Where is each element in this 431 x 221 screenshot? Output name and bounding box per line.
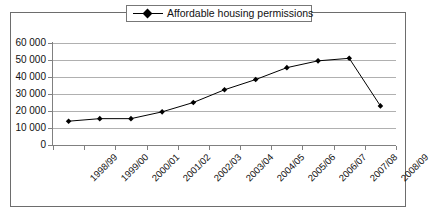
y-axis-tick <box>48 94 52 95</box>
x-axis-tick <box>115 146 116 150</box>
x-axis-tick <box>334 146 335 150</box>
gridline <box>53 94 396 95</box>
x-axis-tick <box>271 146 272 150</box>
y-axis-line <box>52 42 53 146</box>
y-axis-tick <box>48 128 52 129</box>
x-axis-tick <box>178 146 179 150</box>
y-axis-tick-label: 10 000 <box>2 123 46 133</box>
legend-line-marker-icon <box>133 9 163 18</box>
y-axis-tick <box>48 60 52 61</box>
x-axis-tick <box>147 146 148 150</box>
x-axis-tick <box>209 146 210 150</box>
y-axis-tick-label: 50 000 <box>2 55 46 65</box>
gridlines-group <box>53 43 396 145</box>
y-axis-tick <box>48 77 52 78</box>
y-axis-tick <box>48 43 52 44</box>
x-axis-tick <box>365 146 366 150</box>
gridline <box>53 111 396 112</box>
gridline <box>53 43 396 44</box>
x-axis-tick <box>53 146 54 150</box>
x-axis-tick <box>396 146 397 150</box>
y-axis-tick <box>48 145 52 146</box>
gridline <box>53 77 396 78</box>
gridline <box>53 60 396 61</box>
y-axis-tick-label: 60 000 <box>2 38 46 48</box>
y-axis-tick-labels: 010 00020 00030 00040 00050 00060 000 <box>0 0 46 200</box>
chart-legend: Affordable housing permissions <box>126 5 312 22</box>
y-axis-tick-label: 0 <box>2 140 46 150</box>
x-axis-tick <box>302 146 303 150</box>
x-axis-line <box>52 145 396 146</box>
legend-entry-label: Affordable housing permissions <box>167 8 313 19</box>
x-axis-tick <box>84 146 85 150</box>
y-axis-tick-label: 30 000 <box>2 89 46 99</box>
y-axis-tick <box>48 111 52 112</box>
y-axis-tick-label: 40 000 <box>2 72 46 82</box>
gridline <box>53 128 396 129</box>
x-axis-tick <box>240 146 241 150</box>
y-axis-tick-label: 20 000 <box>2 106 46 116</box>
